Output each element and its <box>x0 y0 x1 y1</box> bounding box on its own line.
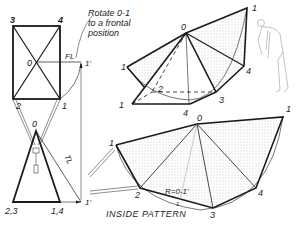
svg-text:0: 0 <box>181 22 186 32</box>
svg-text:0: 0 <box>32 119 37 129</box>
svg-text:1: 1 <box>286 104 291 114</box>
svg-text:3: 3 <box>10 15 15 25</box>
svg-text:1: 1 <box>252 3 257 13</box>
svg-text:4: 4 <box>258 188 263 198</box>
svg-text:R=0-1': R=0-1' <box>165 187 189 196</box>
svg-text:2,3: 2,3 <box>4 206 18 216</box>
person-figure <box>258 20 289 93</box>
pyramid-development-diagram: Rotate 0-1 to a frontal position 3 4 2 1… <box>0 0 298 226</box>
svg-text:Rotate 0-1: Rotate 0-1 <box>88 8 130 18</box>
inside-pattern <box>88 117 283 210</box>
svg-text:1: 1 <box>119 100 124 110</box>
svg-text:2: 2 <box>157 84 163 94</box>
svg-text:1: 1 <box>121 62 126 72</box>
svg-text:position: position <box>87 28 119 38</box>
svg-text:1: 1 <box>109 138 114 148</box>
drawing: Rotate 0-1 to a frontal position 3 4 2 1… <box>0 0 298 226</box>
svg-text:INSIDE PATTERN: INSIDE PATTERN <box>106 209 186 219</box>
svg-text:FL: FL <box>65 52 74 61</box>
front-view <box>13 131 81 204</box>
svg-text:3: 3 <box>210 210 215 220</box>
note-text: Rotate 0-1 to a frontal position <box>87 8 132 38</box>
svg-text:1,4: 1,4 <box>51 206 64 216</box>
svg-text:1: 1 <box>176 201 179 207</box>
svg-text:1: 1 <box>62 101 67 111</box>
svg-text:4: 4 <box>183 108 188 118</box>
svg-text:4: 4 <box>246 66 251 76</box>
top-view <box>13 16 92 200</box>
pictorial-view <box>127 8 247 104</box>
svg-text:0: 0 <box>27 58 32 68</box>
svg-text:2: 2 <box>134 190 140 200</box>
svg-text:4: 4 <box>57 15 63 25</box>
svg-text:3: 3 <box>219 95 224 105</box>
svg-text:2: 2 <box>15 101 21 111</box>
svg-text:TL: TL <box>62 153 74 165</box>
svg-text:1': 1' <box>85 198 91 207</box>
svg-text:1': 1' <box>85 59 91 68</box>
svg-text:to a frontal: to a frontal <box>88 18 132 28</box>
svg-text:0: 0 <box>197 113 202 123</box>
top-view-labels: 3 4 2 1 0 FL 1' <box>10 15 91 111</box>
